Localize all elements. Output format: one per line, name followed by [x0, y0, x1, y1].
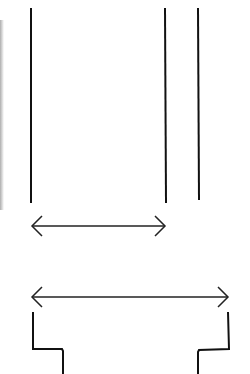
top-right-bar: [165, 8, 166, 203]
loom-diagram: [0, 0, 250, 374]
bottom-right-frame: [198, 312, 229, 374]
bottom-dimension-arrow: [32, 287, 228, 307]
top-outer-bar: [198, 8, 199, 200]
bottom-left-frame: [33, 312, 63, 374]
top-dimension-arrow: [32, 216, 165, 236]
